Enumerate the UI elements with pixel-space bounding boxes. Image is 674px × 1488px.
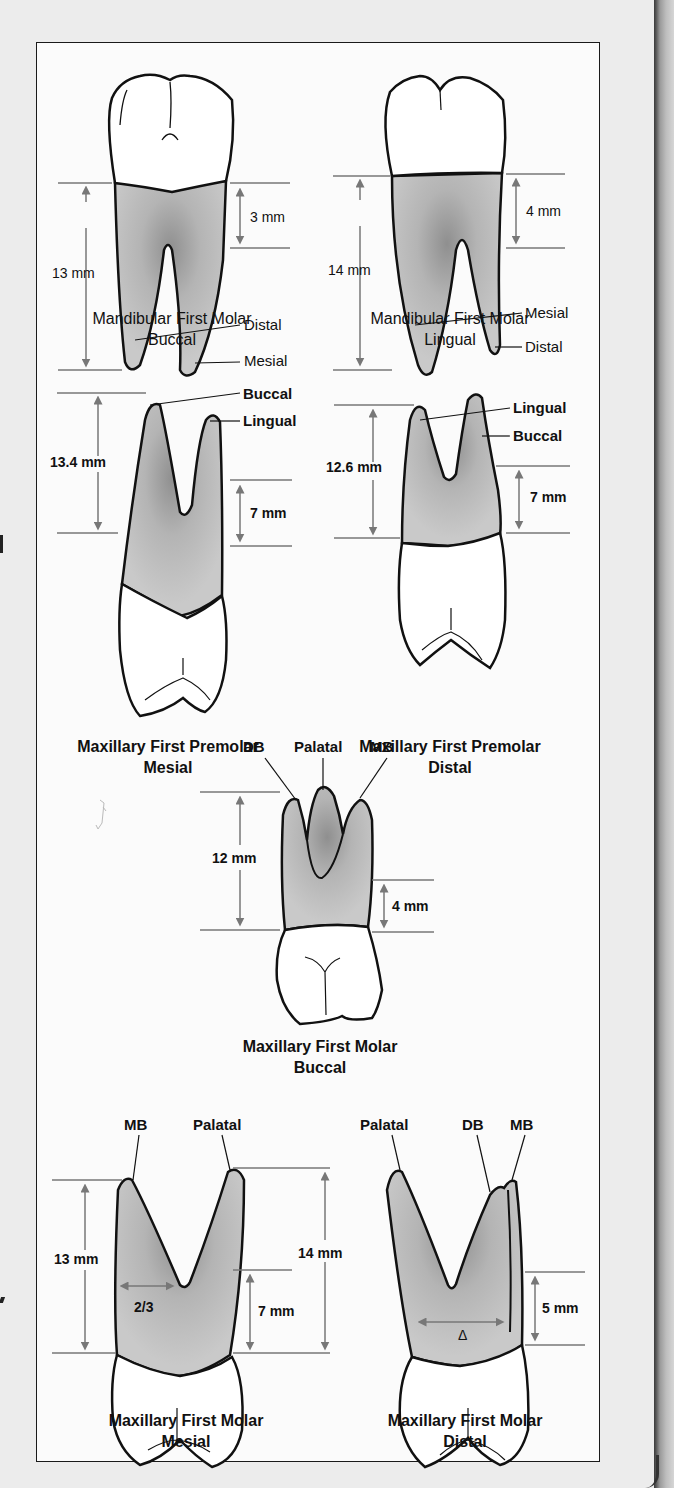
mb-root-length-label: 13 mm: [54, 1251, 98, 1267]
caption-maxillary-molar-distal: Maxillary First Molar Distal: [345, 1410, 585, 1452]
root-length-label: 13 mm: [52, 265, 95, 281]
caption-line1: Mandibular First Molar: [330, 308, 570, 329]
caption-line1: Maxillary First Premolar: [48, 736, 288, 757]
caption-line2: Distal: [330, 757, 570, 778]
root-length-label: 14 mm: [328, 262, 371, 278]
root-label-mb: MB: [510, 1116, 533, 1133]
root-trunk-label: 7 mm: [258, 1303, 295, 1319]
caption-line2: Buccal: [200, 1057, 440, 1078]
root-label-mesial: Mesial: [244, 352, 287, 369]
panel-maxillary-premolar-distal: 12.6 mm 7 mm Lingual Buccal: [326, 394, 570, 668]
caption-maxillary-premolar-mesial: Maxillary First Premolar Mesial: [48, 736, 288, 778]
scan-smudge: [92, 795, 112, 835]
panel-maxillary-molar-buccal: 12 mm 4 mm DB Palatal MB: [200, 738, 434, 1024]
root-trunk-label: 5 mm: [542, 1300, 579, 1316]
caption-maxillary-premolar-distal: Maxillary First Premolar Distal: [330, 736, 570, 778]
root-length-label: 12.6 mm: [326, 459, 382, 475]
caption-mandibular-molar-buccal: Mandibular First Molar Buccal: [52, 308, 292, 350]
caption-line1: Maxillary First Premolar: [330, 736, 570, 757]
root-label-lingual: Lingual: [243, 412, 296, 429]
root-trunk-label: 4 mm: [392, 898, 429, 914]
caption-maxillary-molar-mesial: Maxillary First Molar Mesial: [66, 1410, 306, 1452]
root-length-label: 12 mm: [212, 850, 256, 866]
fraction-label: 2/3: [134, 1299, 154, 1315]
root-shape: [387, 1171, 522, 1366]
caption-line1: Mandibular First Molar: [52, 308, 292, 329]
root-length-label: 13.4 mm: [50, 454, 106, 470]
root-label-buccal: Buccal: [513, 427, 562, 444]
root-label-palatal: Palatal: [360, 1116, 408, 1133]
caption-line1: Maxillary First Molar: [66, 1410, 306, 1431]
root-trunk-label: 3 mm: [250, 209, 285, 225]
crown-shape: [385, 76, 505, 176]
root-label-buccal: Buccal: [243, 385, 292, 402]
root-label-palatal: Palatal: [193, 1116, 241, 1133]
caption-line2: Mesial: [48, 757, 288, 778]
root-shape: [122, 404, 222, 616]
root-label-mb: MB: [124, 1116, 147, 1133]
caption-line2: Distal: [345, 1431, 585, 1452]
caption-line2: Lingual: [330, 329, 570, 350]
root-shape: [115, 1170, 244, 1376]
caption-line1: Maxillary First Molar: [345, 1410, 585, 1431]
crown-shape: [399, 533, 506, 668]
root-shape: [282, 787, 373, 930]
caption-line2: Buccal: [52, 329, 292, 350]
caption-line2: Mesial: [66, 1431, 306, 1452]
crown-shape: [277, 925, 382, 1024]
caption-mandibular-molar-lingual: Mandibular First Molar Lingual: [330, 308, 570, 350]
caption-line1: Maxillary First Molar: [200, 1036, 440, 1057]
root-label-db: DB: [462, 1116, 484, 1133]
delta-symbol: Δ: [458, 1327, 467, 1343]
root-label-lingual: Lingual: [513, 399, 566, 416]
caption-maxillary-molar-buccal: Maxillary First Molar Buccal: [200, 1036, 440, 1078]
root-trunk-label: 7 mm: [250, 505, 287, 521]
panel-maxillary-premolar-mesial: 13.4 mm 7 mm Buccal Lingual: [50, 385, 296, 716]
palatal-root-length-label: 14 mm: [298, 1245, 342, 1261]
root-trunk-label: 4 mm: [526, 203, 561, 219]
root-shape: [402, 394, 501, 546]
root-trunk-label: 7 mm: [530, 489, 567, 505]
